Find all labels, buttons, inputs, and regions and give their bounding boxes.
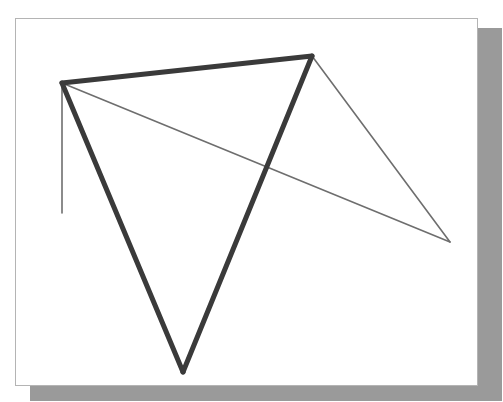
- thick-edge-right: [183, 56, 312, 372]
- thick-edge-left: [62, 83, 183, 372]
- drawing-stage: [0, 0, 503, 402]
- thick-stroke-group: [62, 56, 312, 372]
- line-drawing-canvas: [0, 0, 503, 402]
- thin-stroke-group: [62, 56, 450, 242]
- thick-edge-top: [62, 56, 312, 83]
